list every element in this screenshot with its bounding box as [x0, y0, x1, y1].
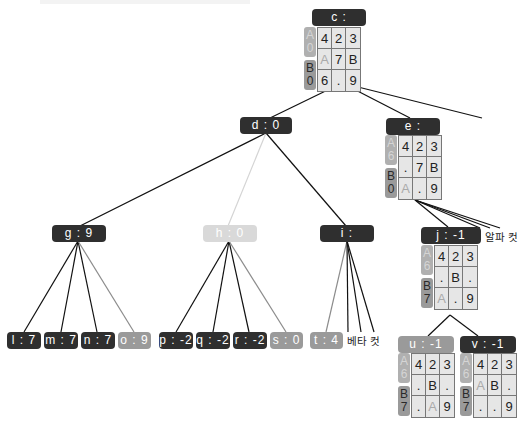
- node-l[interactable]: l : 7: [7, 332, 41, 349]
- cell: 4: [435, 246, 449, 267]
- cell: 2: [413, 136, 427, 157]
- cell: A: [318, 49, 332, 70]
- cell: .: [449, 288, 463, 309]
- node-h[interactable]: h : 0: [203, 225, 257, 242]
- cell: B: [449, 267, 463, 288]
- node-u[interactable]: u : -1: [398, 336, 454, 353]
- board-grid: 4 2 3 A 7 B 6 . 9: [317, 27, 361, 92]
- side-b: B7: [460, 386, 472, 416]
- cell: 9: [502, 396, 516, 417]
- cell: .: [412, 375, 426, 396]
- node-p[interactable]: p : -2: [159, 332, 193, 349]
- cell: 9: [427, 178, 441, 199]
- node-n[interactable]: n : 7: [81, 332, 115, 349]
- cell: 2: [488, 354, 502, 375]
- cell: B: [426, 375, 440, 396]
- side-b: B0: [304, 60, 316, 90]
- cell: 2: [332, 28, 346, 49]
- cell: .: [488, 396, 502, 417]
- cell: B: [346, 49, 360, 70]
- node-q[interactable]: q : -2: [196, 332, 230, 349]
- cell: 7: [413, 157, 427, 178]
- cell: 3: [427, 136, 441, 157]
- cell: .: [332, 70, 346, 91]
- cell: 4: [412, 354, 426, 375]
- node-o[interactable]: o : 9: [118, 332, 151, 349]
- side-a: A6: [421, 245, 433, 275]
- cell: .: [502, 375, 516, 396]
- node-t[interactable]: t : 4: [310, 332, 343, 349]
- node-d[interactable]: d : 0: [240, 117, 292, 134]
- cell: 3: [440, 354, 454, 375]
- cell: .: [413, 178, 427, 199]
- cell: 9: [463, 288, 477, 309]
- cell: A: [399, 178, 413, 199]
- side-b: B7: [421, 278, 433, 308]
- cell: .: [474, 396, 488, 417]
- node-g[interactable]: g : 9: [52, 225, 106, 242]
- node-i[interactable]: i :: [320, 225, 374, 242]
- cell: .: [412, 396, 426, 417]
- cell: A: [474, 375, 488, 396]
- node-m[interactable]: m : 7: [44, 332, 78, 349]
- alpha-cut-label: 알파 컷: [485, 230, 518, 244]
- cell: 9: [440, 396, 454, 417]
- cell: B: [488, 375, 502, 396]
- cell: 3: [463, 246, 477, 267]
- cell: .: [435, 267, 449, 288]
- board-grid: 4 2 3 . 7 B A . 9: [398, 135, 442, 200]
- node-c[interactable]: c :: [312, 9, 366, 26]
- side-a: A6: [398, 353, 410, 383]
- cell: 3: [346, 28, 360, 49]
- beta-cut-label: 베타 컷: [347, 334, 380, 348]
- cell: A: [435, 288, 449, 309]
- cell: 4: [318, 28, 332, 49]
- node-r[interactable]: r : -2: [233, 332, 267, 349]
- side-b: B0: [385, 168, 397, 198]
- side-a: A6: [460, 353, 472, 383]
- node-s[interactable]: s : 0: [270, 332, 303, 349]
- side-b: B7: [398, 386, 410, 416]
- cell: 4: [399, 136, 413, 157]
- cell: 2: [449, 246, 463, 267]
- cell: .: [440, 375, 454, 396]
- cell: B: [427, 157, 441, 178]
- node-j[interactable]: j : -1: [421, 227, 481, 244]
- node-v[interactable]: v : -1: [460, 336, 516, 353]
- board-grid: 4 2 3 A B . . . 9: [473, 353, 517, 418]
- cell: 4: [474, 354, 488, 375]
- cell: 3: [502, 354, 516, 375]
- cell: 9: [346, 70, 360, 91]
- board-grid: 4 2 3 . B . . A 9: [411, 353, 455, 418]
- board-grid: 4 2 3 . B . A . 9: [434, 245, 478, 310]
- cell: .: [463, 267, 477, 288]
- side-a: A0: [304, 27, 316, 57]
- cell: 7: [332, 49, 346, 70]
- cell: 2: [426, 354, 440, 375]
- node-e[interactable]: e :: [386, 118, 440, 135]
- side-a: A6: [385, 135, 397, 165]
- cell: A: [426, 396, 440, 417]
- cell: 6: [318, 70, 332, 91]
- cell: .: [399, 157, 413, 178]
